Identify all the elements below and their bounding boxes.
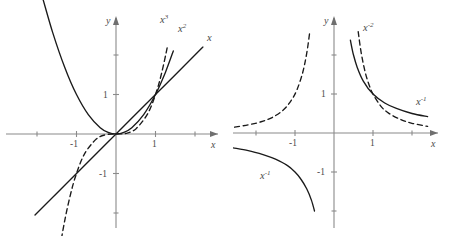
right-x-axis-arrowhead bbox=[430, 130, 438, 136]
label-x-minus-one-left-exponent: -1 bbox=[265, 169, 271, 177]
curve-x-minus-two-left bbox=[235, 32, 310, 128]
label-x-squared: x2 bbox=[177, 22, 187, 34]
curve-x-minus-two-right bbox=[358, 32, 427, 127]
panel-positive-powers: x3 x2 x -1 1 1 -1 x y bbox=[0, 0, 233, 236]
right-y-axis-arrowhead bbox=[331, 16, 337, 25]
right-y-axis-label: y bbox=[323, 15, 329, 26]
power-functions-figure: x3 x2 x -1 1 1 -1 x y bbox=[0, 0, 466, 236]
left-y-axis-arrowhead bbox=[113, 16, 119, 25]
label-x-minus-two-exponent: -2 bbox=[368, 21, 374, 29]
curve-x-minus-one-left bbox=[233, 148, 315, 211]
left-y-axis-label: y bbox=[105, 15, 111, 26]
right-yticklabel-neg1: -1 bbox=[317, 167, 325, 177]
label-x-cubed-exponent: 3 bbox=[164, 13, 169, 21]
left-xticklabel-1: 1 bbox=[152, 139, 157, 149]
left-x-axis-arrowhead bbox=[210, 131, 218, 137]
label-x-squared-exponent: 2 bbox=[183, 22, 187, 30]
left-yticklabel-1: 1 bbox=[103, 90, 108, 100]
right-xticklabel-neg1: -1 bbox=[289, 138, 297, 148]
right-plot-svg: x-2 x-1 x-1 -1 1 1 -1 x y bbox=[233, 0, 466, 236]
left-x-axis-label: x bbox=[210, 139, 216, 150]
label-x-minus-one-right: x-1 bbox=[415, 95, 427, 107]
curve-x-linear bbox=[35, 47, 203, 215]
label-x-linear: x bbox=[206, 32, 212, 43]
label-x-minus-two: x-2 bbox=[362, 21, 374, 33]
right-axes bbox=[233, 16, 438, 228]
left-yticklabel-neg1: -1 bbox=[99, 169, 107, 179]
label-x-cubed: x3 bbox=[159, 13, 169, 25]
left-plot-svg: x3 x2 x -1 1 1 -1 x y bbox=[0, 0, 233, 236]
left-xticklabel-neg1: -1 bbox=[70, 139, 78, 149]
right-xticklabel-1: 1 bbox=[370, 138, 375, 148]
left-axes bbox=[6, 16, 218, 228]
right-yticklabel-1: 1 bbox=[321, 89, 326, 99]
right-x-axis-label: x bbox=[430, 138, 436, 149]
label-x-minus-one-right-exponent: -1 bbox=[421, 95, 427, 103]
panel-negative-powers: x-2 x-1 x-1 -1 1 1 -1 x y bbox=[233, 0, 466, 236]
label-x-minus-one-left: x-1 bbox=[259, 169, 271, 181]
